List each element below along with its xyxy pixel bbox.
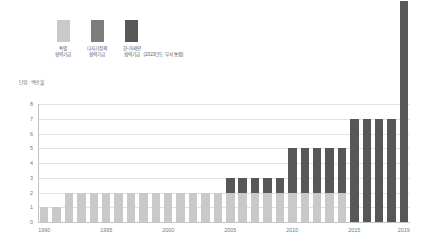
bar-1996[interactable] (114, 193, 122, 223)
bar-segment (226, 193, 234, 223)
bar-segment (263, 193, 271, 223)
bar-2002[interactable] (189, 193, 197, 223)
legend-swatch-multilateral-policy-fund (91, 20, 104, 42)
bar-2015[interactable] (350, 119, 358, 222)
legend-label-1-line2: 협력기금 (87, 52, 107, 58)
bar-1994[interactable] (90, 193, 98, 223)
bar-slot (125, 104, 137, 222)
x-tick-label-1995: 1995 (100, 227, 112, 233)
bar-2013[interactable] (325, 148, 333, 222)
bar-segment (325, 193, 333, 223)
bar-segment (288, 148, 296, 192)
y-tick-label-5: 5 (30, 145, 33, 151)
bar-segment (65, 193, 73, 223)
bar-2011[interactable] (301, 148, 309, 222)
bar-segment (301, 148, 309, 192)
bar-segment (338, 193, 346, 223)
bar-segment (176, 193, 184, 223)
x-tick-label-1990: 1990 (38, 227, 50, 233)
y-tick-label-4: 4 (30, 160, 33, 166)
bar-2007[interactable] (251, 178, 259, 222)
bar-slot (199, 104, 211, 222)
y-tick-label-8: 8 (30, 101, 33, 107)
bar-1999[interactable] (152, 193, 160, 223)
y-tick-label-7: 7 (30, 116, 33, 122)
bar-1993[interactable] (77, 193, 85, 223)
bar-segment (238, 178, 246, 193)
legend-label-0-line2: 협력기금 (55, 52, 71, 58)
bar-segment (276, 178, 284, 193)
bar-2016[interactable] (363, 119, 371, 222)
x-axis-line (38, 222, 410, 223)
bar-slot (112, 104, 124, 222)
bar-2000[interactable] (164, 193, 172, 223)
bar-segment (52, 207, 60, 222)
bar-2009[interactable] (276, 178, 284, 222)
bar-2004[interactable] (214, 193, 222, 223)
bar-1998[interactable] (139, 193, 147, 223)
bar-1995[interactable] (102, 193, 110, 223)
bar-2001[interactable] (176, 193, 184, 223)
legend-label-2: 한-아세안 협력기금 (123, 46, 141, 58)
bar-2017[interactable] (375, 119, 383, 222)
y-tick-label-1: 1 (30, 204, 33, 210)
bar-slot (385, 104, 397, 222)
bar-slot (361, 104, 373, 222)
legend-swatch-korea-asean-fund (125, 20, 138, 42)
bar-segment (164, 193, 172, 223)
bar-2018[interactable] (387, 119, 395, 222)
bar-1990[interactable] (40, 207, 48, 222)
bar-slot (286, 104, 298, 222)
legend-label-1: 다자기정책 협력기금 (87, 46, 107, 58)
bar-segment (251, 193, 259, 223)
bar-2014[interactable] (338, 148, 346, 222)
bar-segment (189, 193, 197, 223)
legend-label-0: 특별 협력기금 (55, 46, 71, 58)
bar-2008[interactable] (263, 178, 271, 222)
bar-2012[interactable] (313, 148, 321, 222)
bar-segment (276, 193, 284, 223)
bar-slot (224, 104, 236, 222)
bar-slot (212, 104, 224, 222)
bar-series-container (38, 104, 410, 222)
bar-slot (100, 104, 112, 222)
bar-slot (323, 104, 335, 222)
legend-item-0: 특별 협력기금 (55, 20, 71, 58)
chart-legend: 특별 협력기금 다자기정책 협력기금 한-아세안 협력기금 (2023년도 부서… (55, 20, 157, 58)
bar-slot (174, 104, 186, 222)
bar-segment (90, 193, 98, 223)
bar-slot (274, 104, 286, 222)
bar-segment (152, 193, 160, 223)
bar-segment (400, 1, 408, 222)
bar-segment (77, 193, 85, 223)
y-tick-label-2: 2 (30, 190, 33, 196)
x-tick-label-2015: 2015 (348, 227, 360, 233)
bar-segment (301, 193, 309, 223)
y-tick-label-3: 3 (30, 175, 33, 181)
bar-segment (313, 193, 321, 223)
bar-slot (187, 104, 199, 222)
bar-1991[interactable] (52, 207, 60, 222)
bar-segment (387, 119, 395, 222)
bar-segment (375, 119, 383, 222)
bar-1992[interactable] (65, 193, 73, 223)
bar-segment (201, 193, 209, 223)
y-tick-label-6: 6 (30, 131, 33, 137)
bar-slot (50, 104, 62, 222)
bar-slot (348, 104, 360, 222)
bar-slot (137, 104, 149, 222)
bar-2006[interactable] (238, 178, 246, 222)
bar-slot (398, 104, 410, 222)
bar-2010[interactable] (288, 148, 296, 222)
bar-slot (373, 104, 385, 222)
x-tick-label-2010: 2010 (286, 227, 298, 233)
bar-2019[interactable] (400, 1, 408, 222)
bar-2005[interactable] (226, 178, 234, 222)
x-tick-label-2000: 2000 (162, 227, 174, 233)
bar-1997[interactable] (127, 193, 135, 223)
legend-note: (2023년도 부서 통합) (144, 52, 184, 58)
bar-segment (251, 178, 259, 193)
bar-2003[interactable] (201, 193, 209, 223)
bar-segment (226, 178, 234, 193)
bar-slot (299, 104, 311, 222)
